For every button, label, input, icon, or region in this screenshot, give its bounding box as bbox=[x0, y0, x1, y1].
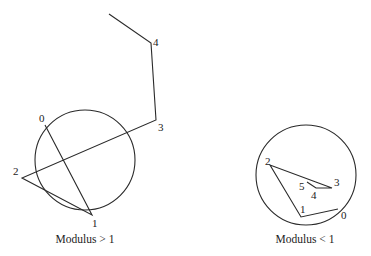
figure-caption: Modulus > 1 bbox=[56, 233, 115, 245]
point-label-2: 2 bbox=[13, 165, 19, 177]
unit-circle bbox=[35, 110, 135, 210]
point-label-4: 4 bbox=[153, 36, 159, 48]
point-labels: 012345 bbox=[265, 155, 347, 221]
point-labels: 01234 bbox=[13, 36, 164, 229]
point-label-2: 2 bbox=[265, 155, 271, 167]
point-label-1: 1 bbox=[92, 217, 98, 229]
point-label-3: 3 bbox=[158, 121, 164, 133]
point-label-5: 5 bbox=[299, 180, 305, 192]
point-label-1: 1 bbox=[300, 203, 306, 215]
point-label-3: 3 bbox=[334, 176, 340, 188]
point-label-0: 0 bbox=[341, 209, 347, 221]
modulus-diagram: 01234 Modulus > 1 012345 Modulus < 1 bbox=[0, 0, 371, 256]
figure-modulus-less-than-one: 012345 Modulus < 1 bbox=[256, 125, 356, 245]
figure-caption: Modulus < 1 bbox=[276, 233, 335, 245]
figure-modulus-greater-than-one: 01234 Modulus > 1 bbox=[13, 14, 164, 245]
point-label-4: 4 bbox=[311, 189, 317, 201]
point-label-0: 0 bbox=[39, 112, 45, 124]
